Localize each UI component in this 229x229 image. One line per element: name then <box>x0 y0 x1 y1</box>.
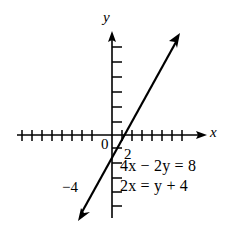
origin-label: 0 <box>101 137 109 152</box>
y-axis-label: y <box>103 10 110 25</box>
equation-2: 2x = y + 4 <box>120 178 188 194</box>
y-intercept-label: −4 <box>62 180 78 195</box>
x-axis-label: x <box>210 125 217 140</box>
y-axis <box>108 31 116 218</box>
graph-figure: y x 0 2 −4 4x − 2y = 8 2x = y + 4 <box>0 0 229 229</box>
equation-1: 4x − 2y = 8 <box>120 158 196 174</box>
coordinate-plane-drawing <box>0 0 229 229</box>
